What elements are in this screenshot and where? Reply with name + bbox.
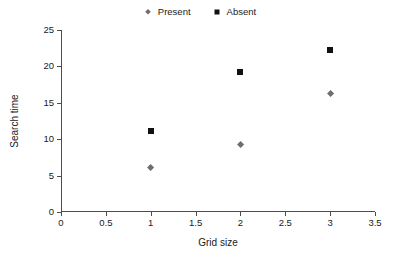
y-axis-tick-label: 10 [43, 134, 54, 144]
y-axis-tick-label: 5 [49, 171, 54, 181]
x-axis-tick [61, 212, 62, 216]
legend-label-present: Present [158, 6, 191, 17]
legend-item-present: Present [144, 6, 191, 17]
x-axis-line [61, 211, 375, 212]
y-axis-title: Search time [8, 30, 22, 212]
legend-item-absent: Absent [213, 6, 257, 17]
diamond-marker-icon [144, 7, 153, 16]
x-axis-tick [196, 212, 197, 216]
y-axis-tick [57, 66, 61, 67]
x-axis-tick [330, 212, 331, 216]
y-axis-line [61, 30, 62, 212]
x-axis-tick [106, 212, 107, 216]
x-axis-tick-label: 1.5 [189, 218, 202, 228]
y-axis-tick [57, 176, 61, 177]
square-marker-icon [213, 7, 222, 16]
x-axis-tick-label: 1 [148, 218, 153, 228]
x-axis-tick [375, 212, 376, 216]
x-axis-title: Grid size [61, 237, 375, 249]
y-axis-tick [57, 212, 61, 213]
y-axis-tick [57, 139, 61, 140]
legend-label-absent: Absent [227, 6, 257, 17]
chart-legend: Present Absent [0, 6, 400, 17]
y-axis-tick [57, 103, 61, 104]
plot-area: 00.511.522.533.50510152025 [61, 30, 375, 212]
x-axis-tick-label: 3 [327, 218, 332, 228]
x-axis-tick [285, 212, 286, 216]
x-axis-tick-label: 2 [238, 218, 243, 228]
x-axis-tick-label: 0.5 [99, 218, 112, 228]
y-axis-tick-label: 25 [43, 25, 54, 35]
scatter-chart-figure: Present Absent 00.511.522.533.5051015202… [0, 0, 400, 265]
y-axis-tick-label: 15 [43, 98, 54, 108]
x-axis-tick [240, 212, 241, 216]
x-axis-tick-label: 2.5 [279, 218, 292, 228]
x-axis-tick [151, 212, 152, 216]
y-axis-tick [57, 30, 61, 31]
x-axis-tick-label: 3.5 [368, 218, 381, 228]
y-axis-tick-label: 20 [43, 61, 54, 71]
y-axis-tick-label: 0 [49, 207, 54, 217]
x-axis-tick-label: 0 [58, 218, 63, 228]
